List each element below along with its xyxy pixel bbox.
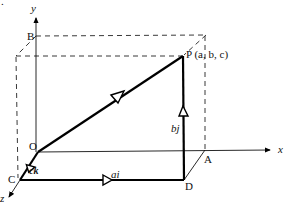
vector-ai-label: ai [111,169,120,180]
vector-diagram [0,0,284,203]
corner-mark: . [1,0,4,7]
point-b-label: B [27,31,34,42]
axes [9,18,270,197]
x-axis-label: x [278,144,283,155]
point-c-label: C [8,174,15,185]
arrow-dp-icon [179,106,188,116]
point-a-label: A [204,154,212,165]
y-axis-label: y [31,3,36,14]
vector-op [38,56,183,152]
point-p-label: P (a, b, c) [186,49,228,60]
point-d-label: D [185,181,193,192]
x-axis [38,150,270,152]
dashed-box-edges [16,35,206,178]
vector-ck-label: ck [29,166,38,176]
point-o-label: O [29,141,37,152]
vector-bj-label: bj [171,123,180,134]
line-a-d [184,150,205,180]
vector-path [20,56,184,180]
z-axis-label: z [0,193,4,203]
vector-dp [183,56,184,180]
